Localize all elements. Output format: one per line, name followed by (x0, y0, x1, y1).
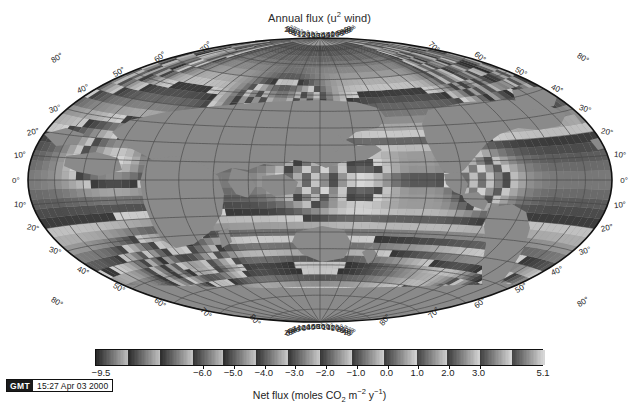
flux-cell (398, 151, 408, 158)
flux-cell (114, 180, 122, 188)
flux-cell (540, 188, 549, 197)
flux-cell (534, 180, 542, 188)
flux-cell (122, 188, 131, 196)
flux-cell (295, 222, 304, 229)
flux-cell (285, 201, 294, 208)
flux-cell (278, 222, 287, 229)
colorbar-wrap[interactable] (95, 349, 543, 366)
flux-cell (369, 222, 379, 229)
flux-cell (269, 215, 278, 222)
flux-cell (417, 187, 426, 194)
flux-cell (501, 164, 510, 172)
flux-cell (302, 180, 311, 187)
flux-cell (469, 172, 478, 180)
flux-cell (398, 201, 408, 208)
flux-cell (409, 173, 418, 180)
flux-cell (62, 180, 70, 189)
world-flux-map[interactable] (26, 36, 614, 324)
flux-cell (347, 180, 356, 187)
flux-cell (326, 268, 333, 274)
flux-cell (320, 187, 329, 194)
colorbar-caption: Net flux (moles CO2 m−2 y−1) (0, 387, 639, 404)
flux-cell (130, 188, 139, 196)
map-plot-area[interactable]: 0°20°40°60°80°100°120°140°160°180°160°14… (26, 36, 614, 324)
longitude-label-bottom: 0° (347, 329, 355, 338)
flux-cell (541, 172, 549, 180)
flux-cell (338, 187, 347, 194)
flux-cell (533, 163, 542, 171)
flux-cell (374, 187, 383, 194)
flux-cell (315, 280, 320, 286)
flux-cell (320, 280, 325, 286)
figure-title-tail: wind) (341, 12, 371, 24)
flux-cell (302, 173, 311, 180)
flux-cell (311, 166, 320, 173)
flux-cell (268, 208, 277, 215)
flux-cell (469, 165, 478, 173)
flux-cell (426, 165, 435, 172)
colorbar-tick-label: 3.0 (457, 367, 501, 378)
latitude-label-right: 10° (613, 150, 626, 160)
flux-cell (427, 180, 436, 187)
latitude-label-left: 10° (14, 150, 27, 160)
flux-cell (276, 201, 285, 208)
flux-cell (302, 201, 311, 208)
flux-cell (409, 187, 418, 194)
flux-cell (354, 138, 363, 145)
flux-cell (329, 173, 338, 180)
flux-cell (541, 180, 549, 188)
flux-cell (435, 180, 444, 187)
flux-cell (347, 166, 356, 173)
flux-cell (129, 180, 137, 188)
flux-cell (303, 208, 312, 215)
flux-cell (510, 172, 518, 180)
flux-cell (486, 180, 495, 188)
flux-cell (345, 222, 354, 229)
flux-cell (397, 144, 407, 151)
flux-cell (329, 201, 338, 208)
flux-cell (286, 222, 295, 229)
flux-cell (382, 166, 391, 173)
flux-cell (381, 201, 391, 208)
flux-cell (478, 180, 487, 188)
flux-cell (409, 180, 418, 187)
flux-cell (400, 166, 409, 173)
flux-cell (369, 131, 379, 138)
caption-mid: m (346, 389, 358, 401)
flux-cell (356, 187, 365, 194)
caption-y-exponent: −1 (374, 387, 383, 396)
flux-cell (114, 172, 122, 180)
flux-cell (48, 180, 56, 189)
flux-cell (486, 172, 495, 180)
flux-cell (275, 166, 284, 173)
flux-cell (365, 166, 374, 173)
colorbar-min-label: −9.5 (79, 367, 123, 378)
flux-cell (571, 171, 579, 180)
flux-cell (397, 209, 407, 216)
flux-cell (285, 208, 294, 215)
flux-cell (224, 202, 234, 209)
latitude-label-left: 0° (12, 176, 20, 185)
flux-cell (549, 180, 557, 189)
flux-cell (277, 215, 286, 222)
flux-cell (585, 171, 593, 180)
flux-cell (578, 180, 586, 189)
flux-cell (337, 215, 346, 222)
flux-cell (338, 201, 347, 208)
flux-cell (309, 274, 315, 280)
flux-cell (427, 173, 436, 180)
flux-cell (325, 80, 331, 86)
flux-cell (328, 215, 337, 222)
flux-cell (477, 165, 486, 173)
figure-title-main: Annual flux (u (268, 12, 337, 24)
flux-cell (261, 222, 271, 229)
flux-cell (266, 166, 275, 173)
flux-cell (585, 180, 593, 189)
colorbar[interactable] (95, 349, 543, 366)
flux-cell (260, 215, 270, 222)
flux-cell (362, 138, 371, 145)
flux-cell (326, 86, 333, 92)
flux-cell (526, 172, 534, 180)
flux-cell (407, 151, 417, 158)
flux-cell (388, 145, 398, 152)
